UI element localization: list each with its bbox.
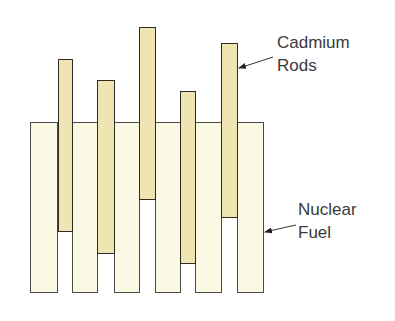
cadmium-rod-2: [97, 80, 115, 254]
fuel-arrow-icon: [265, 225, 296, 232]
fuel-label-line2: Fuel: [298, 223, 357, 243]
fuel-rod-6: [237, 122, 264, 293]
cadmium-rod-3: [139, 27, 156, 200]
fuel-rod-5: [195, 122, 222, 293]
fuel-rod-2: [72, 122, 98, 293]
cadmium-rods-label: Cadmium Rods: [277, 33, 350, 76]
fuel-label-line1: Nuclear: [298, 200, 357, 220]
fuel-rod-3: [114, 122, 140, 293]
cadmium-rod-1: [58, 59, 73, 232]
nuclear-fuel-label: Nuclear Fuel: [298, 200, 357, 243]
cadmium-rod-5: [221, 43, 238, 218]
cadmium-rod-4: [180, 91, 196, 264]
fuel-rod-1: [30, 122, 58, 293]
cadmium-label-line2: Rods: [277, 56, 350, 76]
cadmium-label-line1: Cadmium: [277, 33, 350, 53]
cadmium-arrow-icon: [239, 57, 273, 68]
fuel-rod-4: [155, 122, 181, 293]
